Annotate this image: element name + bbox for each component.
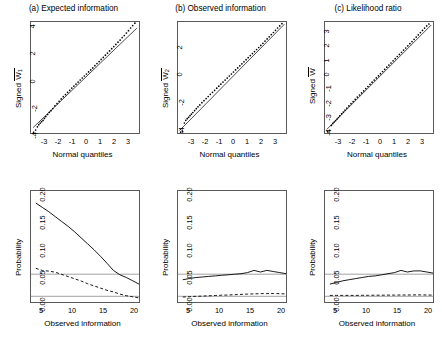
panel-c-xtick: 3	[420, 137, 424, 146]
panel-c-ytick: 2	[322, 43, 331, 47]
panel-b-ytick: 0	[175, 72, 184, 76]
panel-c-bottom-xtick: 20	[424, 306, 432, 315]
panel-b-ytick: -2	[177, 99, 186, 106]
panel-a-ytick: 2	[28, 51, 37, 55]
panel-a-bottom-xlabel: Observed information	[18, 319, 147, 328]
panel-c-xlabel: Normal quantiles	[312, 150, 442, 159]
panel-b-bottom-xtick: 5	[186, 306, 190, 315]
panel-b-xlabel: Normal quantiles	[165, 150, 294, 159]
series-solid	[183, 270, 286, 279]
panel-c-canvas	[325, 22, 433, 133]
panel-a-bottom-xtick: 20	[130, 306, 138, 315]
panel-a-bottom-canvas	[31, 191, 139, 302]
panel-a-ytick: 0	[28, 79, 37, 83]
panel-a-top: (a) Expected information Signed W1	[0, 4, 147, 174]
panel-b-plot-area	[177, 21, 287, 134]
panel-a-bottom-xtick: 10	[68, 306, 76, 315]
panel-a-ylabel: Signed W1	[14, 68, 24, 108]
panel-c-xtick: 0	[378, 137, 382, 146]
panel-c-bottom-ytick: 0.05	[332, 270, 341, 284]
panel-b-bottom-ytick: 0.10	[185, 243, 194, 257]
panel-a-xtick: -2	[55, 137, 62, 146]
panel-c-xtick: -2	[349, 137, 356, 146]
panel-b-bottom-ytick: 0.20	[185, 187, 194, 201]
panel-c-bottom-ytick: 0.20	[332, 187, 341, 201]
panel-c-ylabel: Signed W	[308, 67, 317, 104]
panel-b-xtick: 1	[245, 137, 249, 146]
panel-c-bottom-xtick: 15	[393, 306, 401, 315]
panel-a-canvas	[31, 22, 139, 133]
panel-a-bottom-ytick: 0.20	[38, 187, 47, 201]
panel-c-xtick: -3	[335, 137, 342, 146]
panel-b-bottom-xtick: 20	[277, 306, 285, 315]
panel-c-bottom-xlabel: Observed information	[312, 319, 442, 328]
panel-a-title: (a) Expected information	[0, 4, 147, 13]
panel-a-ytick: 4	[28, 24, 37, 28]
series-dashed	[36, 268, 139, 298]
panel-c-title: (c) Likelihood ratio	[294, 4, 442, 13]
panel-a-bottom-ytick: 0.15	[38, 215, 47, 229]
panel-b-ytick: -4	[177, 127, 186, 134]
panel-c-ytick: 1	[322, 58, 331, 62]
panel-c-reference-line	[327, 25, 431, 129]
panel-b-xtick: 0	[231, 137, 235, 146]
panel-c-xtick: 2	[406, 137, 410, 146]
panel-c-bottom-ylabel: Probability	[308, 239, 317, 276]
panel-a-ytick: -2	[30, 105, 39, 112]
panel-c-ytick: -1	[324, 85, 333, 92]
panel-a-xtick: 3	[126, 137, 130, 146]
panel-a-xtick: -1	[69, 137, 76, 146]
panel-a-xtick: 0	[84, 137, 88, 146]
panel-a-xtick: -3	[41, 137, 48, 146]
panel-a-bottom-ylabel: Probability	[14, 239, 23, 276]
panel-c-bottom-ytick: 0.15	[332, 215, 341, 229]
panel-a-xtick: 1	[98, 137, 102, 146]
panel-b-xtick: 3	[273, 137, 277, 146]
panel-b-xtick: -1	[216, 137, 223, 146]
panel-b-bottom: Probability 0.20 0.15 0.10 0.05 0.00 5 1…	[147, 178, 294, 348]
panel-a-points	[33, 22, 136, 133]
panel-c-bottom-ytick: 0.10	[332, 243, 341, 257]
panel-c-ytick: 0	[322, 72, 331, 76]
panel-a-xlabel: Normal quantiles	[18, 150, 147, 159]
panel-b-canvas	[178, 22, 286, 133]
panel-a-ytick: -4	[30, 132, 39, 139]
panel-b-xtick: -2	[202, 137, 209, 146]
panel-b-title: (b) Observed information	[147, 4, 294, 13]
panel-b-bottom-xtick: 15	[246, 306, 254, 315]
series-dashed	[330, 295, 433, 296]
series-solid	[330, 270, 433, 284]
panel-c-bottom-canvas	[325, 191, 433, 302]
panel-b-bottom-ylabel: Probability	[161, 239, 170, 276]
panel-c-bottom: Probability 0.20 0.15 0.10 0.05 0.00 5 1…	[294, 178, 442, 348]
panel-c-ytick: -4	[324, 129, 333, 136]
panel-a-bottom-xtick: 15	[99, 306, 107, 315]
panel-b-ytick: 2	[175, 45, 184, 49]
panel-b-xtick: -3	[188, 137, 195, 146]
panel-c-ytick: -2	[324, 100, 333, 107]
panel-c-bottom-xtick: 10	[362, 306, 370, 315]
panel-b-xtick: 2	[259, 137, 263, 146]
panel-a-xtick: 2	[112, 137, 116, 146]
panel-c-xtick: 1	[392, 137, 396, 146]
panel-b-bottom-xtick: 10	[215, 306, 223, 315]
panel-a-bottom-ytick: 0.10	[38, 243, 47, 257]
panel-a-bottom: Probability 0.20 0.15 0.10 0.05 0.00 5 1…	[0, 178, 147, 348]
panel-c-top: (c) Likelihood ratio Signed W	[294, 4, 442, 174]
panel-c-bottom-xtick: 5	[333, 306, 337, 315]
panel-b-bottom-xlabel: Observed information	[165, 319, 294, 328]
panel-c-xtick: -1	[363, 137, 370, 146]
panel-b-reference-line	[180, 24, 285, 130]
panel-b-bottom-ytick: 0.15	[185, 215, 194, 229]
panel-a-plot-area	[30, 21, 140, 134]
panel-a-bottom-xtick: 5	[39, 306, 43, 315]
panel-b-top: (b) Observed information Signed W2	[147, 4, 294, 174]
panel-c-ytick: -3	[324, 114, 333, 121]
panel-b-bottom-ytick: 0.05	[185, 270, 194, 284]
panel-c-plot-area	[324, 21, 434, 134]
panel-c-ytick: 3	[322, 29, 331, 33]
panel-b-ylabel: Signed W2	[161, 68, 171, 108]
panel-a-bottom-ytick: 0.05	[38, 270, 47, 284]
panel-b-bottom-canvas	[178, 191, 286, 302]
